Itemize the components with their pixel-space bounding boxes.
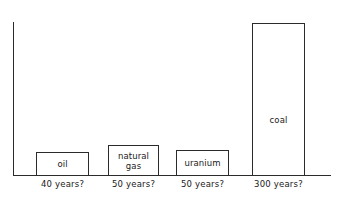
bar-coal: coal: [252, 23, 305, 176]
bar-label-coal: coal: [270, 115, 288, 125]
y-axis-line: [13, 22, 14, 176]
bar-oil: oil: [36, 152, 89, 176]
bar-label-natural-gas: natural gas: [118, 151, 149, 171]
x-tick-label-oil: 40 years?: [26, 178, 99, 190]
bar-label-uranium: uranium: [184, 158, 220, 168]
x-tick-label-uranium: 50 years?: [166, 178, 239, 190]
x-tick-label-natural-gas: 50 years?: [97, 178, 170, 190]
bar-label-oil: oil: [57, 159, 67, 169]
bar-chart: oil natural gas uranium coal 40 years? 5…: [0, 0, 348, 202]
bar-uranium: uranium: [176, 150, 229, 176]
x-tick-label-coal: 300 years?: [242, 178, 315, 190]
bar-natural-gas: natural gas: [108, 145, 159, 176]
